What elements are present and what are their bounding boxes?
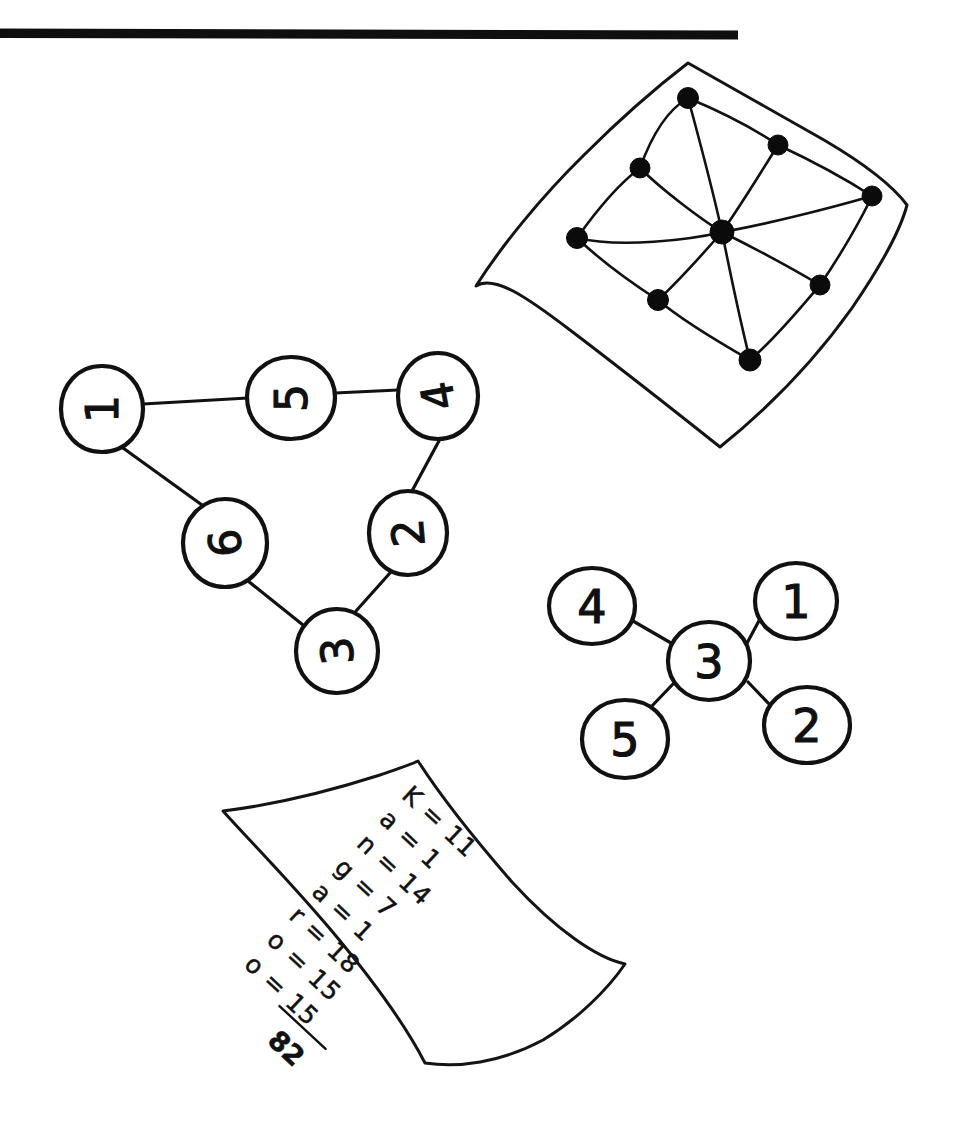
kangaroo-note-figure: K = 11 a = 1 n = 14 g = 7 a = 1 r = 18 o… xyxy=(212,761,625,1079)
star-node-1[interactable]: 1 xyxy=(755,563,837,639)
cycle-node-6[interactable]: 6 xyxy=(183,499,267,587)
star-node-5[interactable]: 5 xyxy=(582,700,668,778)
star-node-4-label: 4 xyxy=(577,580,606,634)
star-node-1-label: 1 xyxy=(781,575,810,629)
figure-canvas: 1 5 4 2 xyxy=(0,0,959,1124)
cycle-node-1[interactable]: 1 xyxy=(61,366,143,452)
cycle-edge-5-4 xyxy=(335,390,398,393)
cycle-node-3-label: 3 xyxy=(310,635,363,667)
cycle-graph-nodes: 1 5 4 2 xyxy=(61,353,478,693)
star-edge-3-2 xyxy=(748,682,771,706)
star-node-2-label: 2 xyxy=(792,699,821,753)
figure-page: 1 5 4 2 xyxy=(0,0,959,1124)
cycle-node-3[interactable]: 3 xyxy=(296,609,378,693)
star-node-2[interactable]: 2 xyxy=(764,687,850,763)
star-node-3[interactable]: 3 xyxy=(668,622,750,700)
cycle-edge-3-6 xyxy=(248,581,303,625)
cycle-edge-4-2 xyxy=(412,439,440,491)
star-node-5-label: 5 xyxy=(610,713,639,767)
cycle-node-5[interactable]: 5 xyxy=(247,357,335,439)
star-graph-figure: 3 4 1 5 xyxy=(549,563,850,778)
graph-vertex xyxy=(678,88,699,109)
graph-vertex xyxy=(648,290,669,311)
cycle-node-2[interactable]: 2 xyxy=(369,491,447,575)
star-edge-3-4 xyxy=(633,621,671,643)
graph-vertex-center xyxy=(710,220,734,244)
cycle-node-2-label: 2 xyxy=(381,517,434,549)
header-rule xyxy=(0,29,738,40)
graph-vertex xyxy=(630,158,650,178)
star-node-3-label: 3 xyxy=(694,635,723,689)
graph-vertex xyxy=(810,275,830,295)
cycle-graph-figure: 1 5 4 2 xyxy=(61,353,478,693)
star-node-4[interactable]: 4 xyxy=(549,568,635,644)
graph-vertex xyxy=(862,186,882,206)
embedded-graph-figure xyxy=(476,63,907,447)
cycle-node-4[interactable]: 4 xyxy=(398,353,478,439)
graph-vertex xyxy=(768,135,788,155)
cycle-edge-6-1 xyxy=(123,448,202,505)
cycle-node-1-label: 1 xyxy=(77,395,128,423)
graph-vertex xyxy=(567,228,588,249)
graph-vertex xyxy=(739,349,761,371)
cycle-edge-2-3 xyxy=(356,573,390,611)
graph-sheet-outline xyxy=(476,63,907,447)
cycle-edge-1-5 xyxy=(143,398,248,404)
note-total-value: 82 xyxy=(262,1024,311,1072)
star-graph-nodes: 3 4 1 5 xyxy=(549,563,850,778)
star-edge-3-5 xyxy=(650,684,673,708)
cycle-node-6-label: 6 xyxy=(198,527,251,559)
cycle-node-5-label: 5 xyxy=(266,384,317,412)
